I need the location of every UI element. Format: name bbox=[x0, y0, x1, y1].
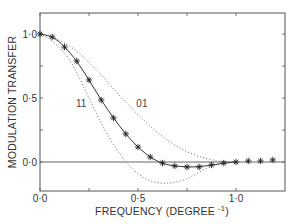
x-tick-label: 0·0 bbox=[33, 193, 48, 204]
star-marker bbox=[86, 77, 92, 83]
star-marker bbox=[208, 162, 214, 168]
dotted-curve-01 bbox=[40, 34, 230, 162]
mtf-chart: 0·00·51·00·00·51·0 1101 FREQUENCY (DEGRE… bbox=[0, 0, 300, 224]
measured-points bbox=[37, 31, 276, 170]
curve-label-01: 01 bbox=[136, 98, 148, 109]
x-tick-label: 1·0 bbox=[229, 193, 244, 204]
y-tick-label: 1·0 bbox=[23, 29, 38, 40]
star-marker bbox=[135, 144, 141, 150]
star-marker bbox=[257, 158, 263, 164]
curve-label-11: 11 bbox=[76, 98, 87, 109]
x-tick-label: 0·5 bbox=[131, 193, 146, 204]
star-marker bbox=[221, 160, 227, 166]
x-axis-label: FREQUENCY (DEGREE -1) bbox=[95, 204, 229, 217]
y-tick-label: 0·0 bbox=[23, 157, 38, 168]
y-axis-label: MODULATION TRANSFER bbox=[6, 36, 18, 169]
y-tick-label: 0·5 bbox=[23, 93, 38, 104]
star-marker bbox=[110, 115, 116, 121]
star-marker bbox=[172, 163, 178, 169]
star-marker bbox=[245, 158, 251, 164]
dotted-curve-11 bbox=[40, 34, 230, 183]
curve-labels: 1101 bbox=[76, 98, 148, 109]
star-marker bbox=[233, 159, 239, 165]
star-marker bbox=[98, 97, 104, 103]
star-marker bbox=[61, 44, 67, 50]
star-marker bbox=[184, 164, 190, 170]
star-marker bbox=[147, 154, 153, 160]
star-marker bbox=[37, 31, 43, 37]
star-marker bbox=[49, 34, 55, 40]
star-marker bbox=[159, 160, 165, 166]
star-marker bbox=[196, 164, 202, 170]
